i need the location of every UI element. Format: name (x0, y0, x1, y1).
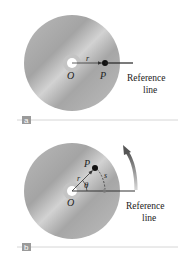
arc-end-dot (103, 189, 107, 193)
arc-label: s (104, 171, 107, 180)
origin-label: O (67, 197, 74, 208)
point-p (92, 165, 98, 171)
panel-b: r θ s P O Reference line b (17, 143, 178, 252)
point-label: P (99, 70, 106, 81)
point-label: P (83, 158, 90, 169)
panel-tag-b: b (24, 243, 29, 252)
panel-tag-a: a (24, 116, 29, 125)
origin-label: O (67, 70, 74, 81)
reference-label-line1: Reference (126, 201, 165, 211)
angle-label: θ (84, 180, 89, 190)
rotating-disc-diagram: r O P Reference line a r θ s P O Referen… (0, 0, 188, 270)
panel-a: r O P Reference line a (17, 15, 178, 125)
reference-label-line2: line (142, 213, 156, 223)
counterclockwise-arrow-icon (127, 152, 136, 190)
reference-label-line2: line (143, 85, 157, 95)
reference-label-line1: Reference (127, 73, 166, 83)
